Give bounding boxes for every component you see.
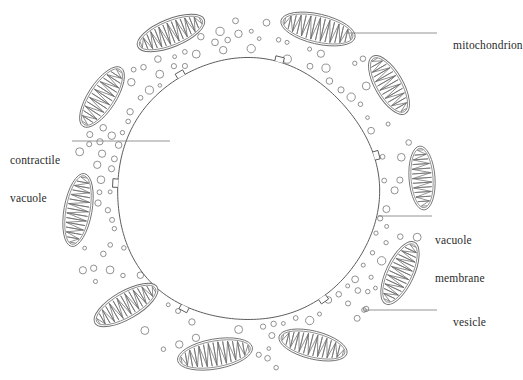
vesicle bbox=[366, 116, 370, 120]
vesicle bbox=[307, 63, 313, 69]
vesicle bbox=[354, 315, 360, 321]
vesicle bbox=[182, 63, 187, 68]
vesicle bbox=[383, 206, 390, 213]
label-vacuole-membrane-line1: vacuole bbox=[435, 234, 485, 247]
vesicle bbox=[97, 139, 103, 145]
vesicle bbox=[225, 37, 231, 43]
vesicle bbox=[338, 87, 344, 93]
label-contractile-vacuole-line2: vacuole bbox=[10, 192, 60, 205]
vesicle bbox=[192, 50, 200, 58]
vesicle bbox=[353, 61, 357, 65]
vesicle bbox=[374, 231, 378, 235]
mitochondrion bbox=[407, 145, 437, 211]
vesicle bbox=[256, 352, 261, 357]
vesicle bbox=[397, 177, 403, 183]
vesicle bbox=[176, 341, 183, 348]
vesicle bbox=[265, 355, 271, 361]
vesicle bbox=[100, 124, 107, 131]
vesicle bbox=[247, 44, 255, 52]
vesicle bbox=[216, 27, 224, 35]
vesicle bbox=[269, 333, 275, 339]
vesicle bbox=[121, 273, 125, 277]
vesicle bbox=[79, 267, 86, 274]
vesicle bbox=[285, 40, 289, 44]
vesicle bbox=[145, 86, 153, 94]
vesicle bbox=[384, 241, 388, 245]
vesicle bbox=[158, 84, 162, 88]
vesicle bbox=[281, 322, 285, 326]
vesicle bbox=[155, 56, 162, 63]
vesicle bbox=[108, 190, 112, 194]
vacuole-membrane-outline bbox=[118, 57, 380, 319]
vesicle bbox=[370, 251, 374, 255]
vesicle bbox=[317, 312, 321, 316]
vesicle bbox=[413, 233, 421, 241]
vesicle bbox=[385, 224, 389, 228]
vesicle bbox=[83, 246, 87, 250]
label-mitochondrion-text: mitochondrion bbox=[453, 39, 523, 51]
vesicle bbox=[97, 190, 102, 195]
vesicle bbox=[128, 78, 135, 85]
vesicle bbox=[260, 324, 265, 329]
vesicle bbox=[317, 50, 324, 57]
vesicle bbox=[306, 316, 314, 324]
vesicle bbox=[326, 78, 333, 85]
mitochondrion bbox=[175, 333, 255, 376]
vesicle bbox=[141, 327, 149, 335]
vesicle bbox=[112, 226, 116, 230]
vesicle bbox=[397, 234, 403, 240]
mitochondrion bbox=[278, 6, 359, 52]
mitochondrion bbox=[276, 323, 351, 367]
vesicle bbox=[126, 119, 131, 124]
mitochondrion bbox=[373, 236, 427, 309]
vesicle bbox=[94, 161, 101, 168]
vesicle bbox=[161, 347, 166, 352]
vesicle bbox=[189, 319, 195, 325]
label-contractile-vacuole: contractile vacuole bbox=[10, 129, 60, 229]
vesicle bbox=[108, 243, 113, 248]
vesicle bbox=[308, 47, 312, 51]
vesicle bbox=[362, 82, 370, 90]
label-vacuole-membrane: vacuole membrane bbox=[435, 209, 485, 309]
vesicle bbox=[366, 289, 371, 294]
vesicle bbox=[271, 321, 276, 326]
vesicle bbox=[115, 142, 122, 149]
label-vesicle-text: vesicle bbox=[453, 316, 486, 328]
vesicle bbox=[111, 156, 117, 162]
vesicle bbox=[156, 70, 164, 78]
mitochondrion bbox=[71, 60, 133, 134]
vesicle bbox=[267, 347, 271, 351]
vesicle bbox=[219, 46, 227, 54]
label-mitochondrion: mitochondrion bbox=[441, 26, 523, 64]
vesicle bbox=[257, 37, 261, 41]
vesicle bbox=[322, 64, 330, 72]
vesicle bbox=[138, 95, 143, 100]
vesicle bbox=[120, 130, 124, 134]
vesicle bbox=[274, 365, 279, 370]
vesicle bbox=[293, 316, 298, 321]
vesicle bbox=[108, 166, 114, 172]
vesicle bbox=[101, 251, 107, 257]
vesicle bbox=[374, 286, 378, 290]
vesicle bbox=[110, 217, 115, 222]
vesicle bbox=[122, 246, 126, 250]
vesicle bbox=[95, 200, 101, 206]
vesicle bbox=[182, 50, 187, 55]
vesicle bbox=[106, 266, 114, 274]
vesicle bbox=[352, 276, 359, 283]
vesicle bbox=[212, 39, 219, 46]
mitochondrion bbox=[88, 275, 164, 335]
label-contractile-vacuole-line1: contractile bbox=[10, 154, 60, 167]
vesicle bbox=[127, 109, 133, 115]
vesicle bbox=[235, 30, 242, 37]
vesicle bbox=[355, 288, 361, 294]
label-vesicle: vesicle bbox=[441, 303, 486, 341]
vesicle bbox=[391, 187, 398, 194]
vesicle bbox=[98, 150, 105, 157]
vesicle bbox=[91, 265, 97, 271]
vesicle bbox=[235, 326, 243, 334]
vesicle bbox=[377, 216, 382, 221]
vesicle bbox=[263, 19, 270, 26]
